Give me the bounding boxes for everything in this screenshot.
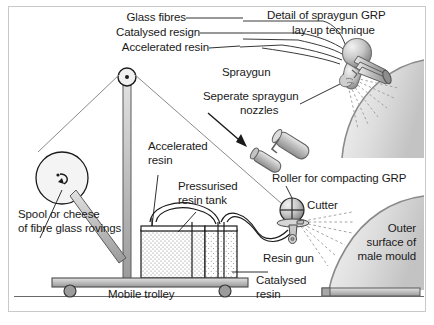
trolley-wheel-left	[64, 285, 76, 297]
mobile-trolley-base	[52, 278, 248, 287]
label-detail-title-line2: lay-up technique	[292, 24, 375, 38]
label-pressurised-tank-line2: resin tank	[178, 194, 227, 208]
label-pressurised-tank-line1: Pressurised	[178, 180, 238, 194]
label-spraygun: Spraygun	[222, 66, 270, 80]
label-accelerated-resin-mid-line1: Accelerated	[148, 140, 208, 154]
label-mobile-trolley: Mobile trolley	[108, 288, 174, 302]
label-separate-nozzles-line1: Seperate spraygun	[203, 90, 298, 104]
pulley-wheel	[118, 68, 136, 86]
label-male-mould-line3: male mould	[330, 250, 416, 264]
label-spool-line2: of fibre glass rovings	[18, 222, 121, 236]
label-separate-nozzles-line2: nozzles	[240, 104, 278, 118]
male-mould-base-plate	[300, 288, 424, 297]
spraygun-detail	[340, 39, 393, 89]
label-catalysed-resin-line2: resin	[256, 288, 280, 302]
label-male-mould-line1: Outer	[330, 222, 416, 236]
label-detail-title-line1: Detail of spraygun GRP	[267, 9, 386, 23]
detail-callout-arrow	[208, 113, 247, 147]
label-glass-fibres: Glass fibres	[86, 11, 186, 25]
label-cutter: Cutter	[307, 199, 338, 213]
label-male-mould-line2: surface of	[330, 236, 416, 250]
label-resin-gun: Resin gun	[263, 252, 314, 266]
diagram-graphics	[0, 0, 434, 325]
nozzle-leader-line	[300, 84, 340, 104]
label-spool-line1: Spool or cheese	[18, 208, 100, 222]
pressurised-resin-tank	[141, 218, 237, 278]
label-accelerated-resin-mid-line2: resin	[148, 154, 172, 168]
cutter-leader-line	[286, 186, 292, 198]
label-roller: Roller for compacting GRP	[272, 172, 406, 186]
label-catalysed-resign: Catalysed resign	[78, 26, 200, 40]
vertical-mast	[123, 78, 131, 282]
trolley-wheel-right	[219, 285, 231, 297]
resin-gun-cutter-head	[277, 198, 309, 244]
label-accelerated-resin-top: Accelerated resin	[82, 41, 209, 55]
figure-root: Glass fibres Catalysed resign Accelerate…	[0, 0, 434, 325]
roller-tool	[249, 128, 312, 175]
label-catalysed-resin-line1: Catalysed	[256, 274, 306, 288]
